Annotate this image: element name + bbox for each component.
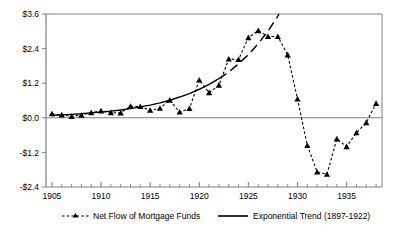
x-tick-label: 1930 bbox=[288, 191, 307, 201]
x-tick-label: 1935 bbox=[337, 191, 356, 201]
y-tick-label: $1.2 bbox=[22, 78, 39, 88]
x-tick-label: 1920 bbox=[190, 191, 209, 201]
y-tick-label: -$1.2 bbox=[20, 148, 40, 158]
net-flow-of-mortgage-funds-chart: $3.6$2.4$1.2$0.0-$1.2-$2.4 1905191019151… bbox=[0, 0, 396, 235]
x-tick-label: 1905 bbox=[42, 191, 61, 201]
y-tick-label: -$2.4 bbox=[20, 182, 40, 192]
y-tick-label: $3.6 bbox=[22, 9, 39, 19]
x-tick-label: 1925 bbox=[239, 191, 258, 201]
legend-trend-label: Exponential Trend (1897-1922) bbox=[253, 211, 370, 221]
x-tick-label: 1915 bbox=[141, 191, 160, 201]
y-tick-label: $2.4 bbox=[22, 44, 39, 54]
y-tick-label: $0.0 bbox=[22, 113, 39, 123]
chart-container: $3.6$2.4$1.2$0.0-$1.2-$2.4 1905191019151… bbox=[0, 0, 396, 235]
legend-net-flow-label: Net Flow of Mortgage Funds bbox=[93, 211, 200, 221]
x-tick-label: 1910 bbox=[92, 191, 111, 201]
